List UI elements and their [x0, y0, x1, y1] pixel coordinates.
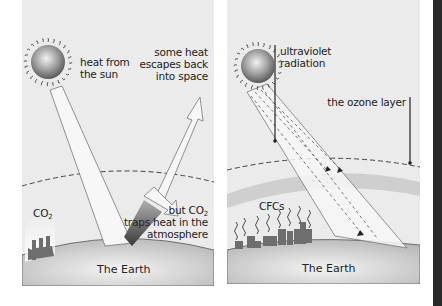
label-ultraviolet-radiation: ultraviolet radiation	[280, 45, 331, 69]
label-subscript: 2	[48, 213, 52, 221]
label-co2-traps-heat: but CO2 traps heat in the atmosphere	[124, 204, 208, 240]
label-line: radiation	[280, 57, 331, 69]
label-line: traps heat in the	[124, 216, 208, 228]
greenhouse-illustration	[22, 0, 214, 286]
page-edge-strip	[433, 0, 442, 306]
label-earth: The Earth	[302, 262, 355, 275]
label-earth: The Earth	[97, 263, 150, 276]
label-text: CO	[33, 207, 48, 219]
label-cfcs: CFCs	[259, 200, 284, 212]
ozone-diagram-panel: ultraviolet radiation the ozone layer CF…	[227, 0, 420, 284]
label-line: heat from	[80, 56, 130, 68]
label-line: ultraviolet	[280, 45, 331, 57]
label-heat-from-sun: heat from the sun	[80, 56, 130, 80]
label-line: escapes back	[139, 58, 208, 70]
label-line: some heat	[139, 46, 208, 58]
label-heat-escapes: some heat escapes back into space	[139, 46, 208, 82]
label-text: but CO	[169, 204, 204, 216]
label-line: the sun	[80, 68, 130, 80]
label-line: into space	[139, 70, 208, 82]
ozone-illustration	[227, 0, 420, 284]
greenhouse-diagram-panel: heat from the sun some heat escapes back…	[22, 0, 214, 286]
label-co2: CO2	[33, 207, 52, 219]
label-ozone-layer: the ozone layer	[327, 96, 406, 108]
label-line: atmosphere	[124, 228, 208, 240]
